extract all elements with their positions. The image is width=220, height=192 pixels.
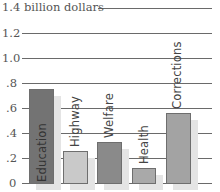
category-label-welfare: Welfare [102, 93, 116, 138]
category-label-highway: Highway [68, 96, 82, 147]
category-label-health: Health [137, 125, 151, 164]
bar-highway [63, 151, 88, 184]
category-label-education: Education [35, 123, 49, 182]
y-tick-0-4: .4 [6, 127, 17, 139]
y-tick-0-6: .6 [6, 102, 17, 114]
y-tick-1-2: 1.2 [2, 27, 20, 39]
y-tick-0: 0 [9, 177, 16, 189]
y-tick-0-8: .8 [6, 77, 17, 89]
y-axis-top-label: 1.4 billion dollars [2, 1, 104, 13]
category-label-corrections: Corrections [170, 41, 184, 109]
bar-corrections [166, 113, 191, 184]
bar-health [132, 168, 156, 184]
gridline-1-2 [22, 33, 212, 34]
bar-chart: 1.4 billion dollars 1.2 1.0 .8 .6 .4 .2 … [0, 0, 220, 192]
y-tick-0-2: .2 [6, 152, 17, 164]
y-tick-1-0: 1.0 [2, 52, 20, 64]
gridline-1-4 [98, 8, 212, 9]
bar-welfare [97, 142, 122, 184]
